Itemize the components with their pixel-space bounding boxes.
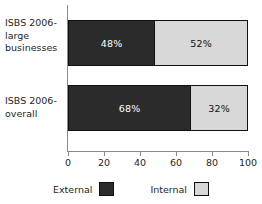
category-label-line: ISBS 2006-: [5, 95, 65, 108]
bar-segment-value: 68%: [119, 103, 141, 114]
category-label-line: overall: [5, 108, 65, 121]
plot-area: 48% 52% 68% 32%: [68, 5, 248, 152]
bar-row: 48% 52%: [68, 20, 248, 66]
category-label-line: ISBS 2006-: [5, 17, 65, 30]
legend-swatch-internal-icon: [194, 182, 209, 196]
bar-segment-internal: 52%: [154, 21, 247, 65]
category-label-overall: ISBS 2006- overall: [5, 95, 65, 120]
bar-segment-internal: 32%: [190, 86, 247, 130]
x-axis-tick-label: 0: [65, 157, 71, 168]
category-label-large-businesses: ISBS 2006- large businesses: [5, 17, 65, 55]
legend-swatch-external-icon: [99, 182, 114, 196]
legend-item-external: External: [53, 182, 114, 196]
x-axis-tick: [176, 152, 177, 156]
category-label-line: businesses: [5, 42, 65, 55]
bar-row: 68% 32%: [68, 85, 248, 131]
x-axis-tick: [140, 152, 141, 156]
bar-segment-value: 32%: [208, 103, 230, 114]
x-axis-tick-label: 40: [134, 157, 146, 168]
category-label-line: large: [5, 30, 65, 43]
x-axis-tick: [248, 152, 249, 156]
legend-label-external: External: [53, 184, 92, 195]
chart-legend: External Internal: [0, 178, 262, 200]
x-axis-tick: [104, 152, 105, 156]
stacked-bar-chart: ISBS 2006- large businesses ISBS 2006- o…: [0, 0, 262, 204]
x-axis-tick-label: 80: [206, 157, 218, 168]
x-axis-tick: [212, 152, 213, 156]
legend-label-internal: Internal: [150, 184, 187, 195]
bar-segment-external: 68%: [69, 86, 190, 130]
legend-item-internal: Internal: [150, 182, 209, 196]
x-axis-tick: [68, 152, 69, 156]
x-axis-tick-label: 60: [170, 157, 182, 168]
bar-segment-value: 52%: [190, 38, 212, 49]
bar-segment-external: 48%: [69, 21, 154, 65]
x-axis-tick-label: 20: [98, 157, 110, 168]
bar-segment-value: 48%: [101, 38, 123, 49]
x-axis-tick-label: 100: [239, 157, 257, 168]
